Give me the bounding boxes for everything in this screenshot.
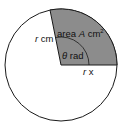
angle-label: θ rad: [62, 50, 84, 61]
radius-bottom-label: r x: [83, 66, 94, 77]
circle-sector-diagram: area A cm2 r cm θ rad r x: [0, 0, 125, 127]
radius-left-label: r cm: [35, 33, 54, 44]
area-label: area A cm2: [57, 28, 104, 39]
